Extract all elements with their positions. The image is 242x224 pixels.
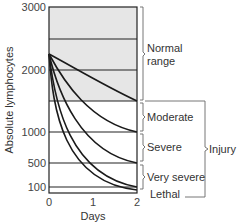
y-tick-2000: 2000	[22, 64, 46, 76]
y-tick-1000: 1000	[22, 126, 46, 138]
y-tick-3000: 3000	[22, 1, 46, 13]
x-axis-label: Days	[80, 210, 106, 222]
label-normal-line2: range	[147, 55, 175, 67]
label-moderate: Moderate	[147, 111, 193, 123]
category-brackets	[140, 7, 208, 197]
normal-range-shading	[49, 7, 137, 101]
label-lethal: Lethal	[150, 188, 180, 200]
y-tick-100: 100	[28, 181, 46, 193]
label-severe: Severe	[147, 141, 182, 153]
lymphocyte-chart: 3000 2000 1000 500 100 0 1 2 Days Absolu…	[0, 0, 242, 224]
label-injury: Injury	[209, 143, 236, 155]
x-tick-1: 1	[90, 196, 96, 208]
y-tick-500: 500	[28, 157, 46, 169]
label-very-severe: Very severe	[147, 171, 205, 183]
x-tick-0: 0	[46, 196, 52, 208]
y-axis-label: Absolute lymphocytes	[3, 46, 15, 153]
label-normal-line1: Normal	[147, 42, 182, 54]
x-tick-2: 2	[134, 196, 140, 208]
